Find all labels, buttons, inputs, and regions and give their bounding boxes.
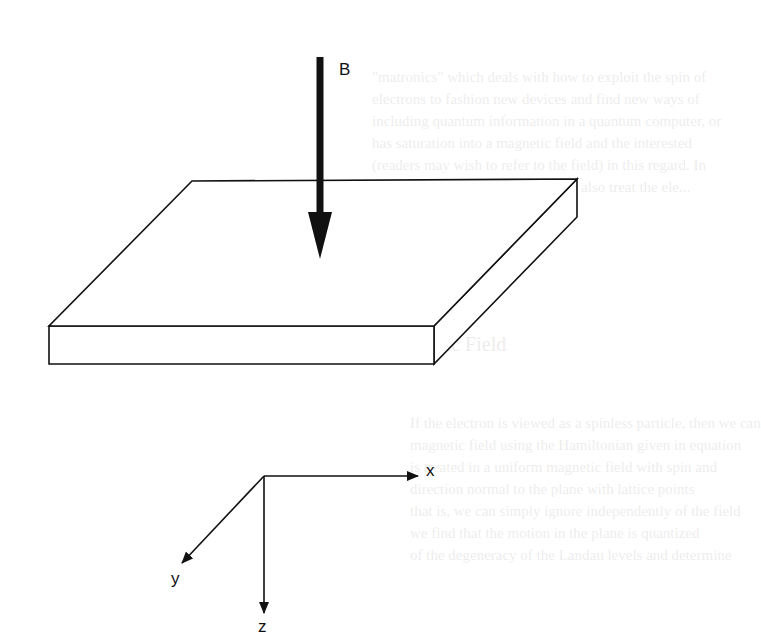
slab-front-face — [49, 326, 434, 364]
y-axis-label: y — [171, 569, 180, 588]
field-arrow-shaft — [317, 57, 324, 215]
y-axis — [182, 476, 264, 563]
field-label: B — [339, 60, 350, 79]
x-axis-label: x — [426, 461, 435, 480]
z-axis-label: z — [258, 617, 267, 634]
slab-top-face — [49, 179, 577, 326]
coordinate-axes — [182, 476, 418, 613]
slab — [49, 179, 577, 364]
